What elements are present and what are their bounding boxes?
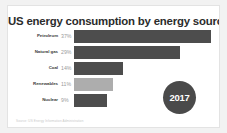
bar-row-coal: Coal 14% [8, 62, 220, 76]
source-note: Source: US Energy Information Administra… [16, 119, 84, 123]
bar-natural-gas [74, 46, 180, 59]
page-title: US energy consumption by energy source [8, 15, 220, 27]
bar-row-petroleum: Petroleum 37% [8, 30, 220, 44]
bar-category-label: Nuclear [7, 97, 58, 102]
bar-category-label: Renewables [7, 81, 58, 86]
bar-value-label: 37% [61, 33, 71, 39]
chart-card: US energy consumption by energy source P… [7, 5, 220, 128]
year-badge: 2017 [163, 81, 196, 114]
bar-value-label: 11% [61, 81, 71, 87]
bar-category-label: Natural gas [7, 49, 58, 54]
bar-petroleum [74, 30, 211, 43]
bar-category-label: Petroleum [7, 33, 58, 38]
bar-nuclear [74, 94, 107, 107]
bar-renewables [74, 78, 113, 91]
bar-coal [74, 62, 123, 75]
bar-value-label: 9% [61, 97, 69, 103]
bar-value-label: 14% [61, 65, 71, 71]
bar-category-label: Coal [7, 65, 58, 70]
bar-value-label: 29% [61, 49, 71, 55]
bar-row-natural-gas: Natural gas 29% [8, 46, 220, 60]
image-frame: US energy consumption by energy source P… [0, 0, 227, 133]
